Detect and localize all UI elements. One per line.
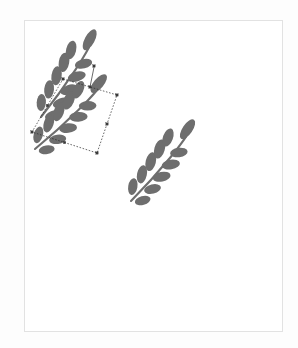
artwork-layer [25,21,283,332]
artboard[interactable] [24,20,283,332]
leafy-branch-3[interactable] [110,109,217,212]
leafy-branch-1[interactable] [25,21,121,127]
app-root: Vector Canvas Leafy Branch 1 Leafy Branc… [0,0,298,348]
